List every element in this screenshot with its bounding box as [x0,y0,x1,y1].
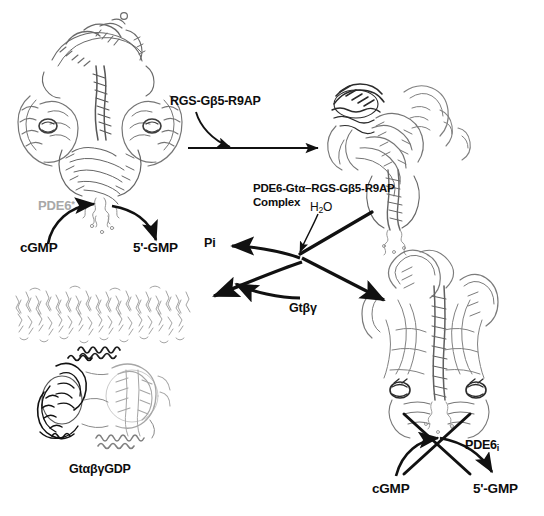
cropped-caption-sliver [0,507,544,516]
lipid-membrane-layer [16,286,190,343]
label-gt-alphabetagamma-gdp: GtαβγGDP [69,462,131,477]
label-5gmp-left: 5'-GMP [133,240,178,256]
arrow-complex-to-hub [300,212,372,254]
figure-canvas: PDE6* cGMP 5'-GMP RGS-Gβ5-R9AP PDE6-Gtα–… [0,0,544,516]
label-pde6-inactive-text: PDE6 [465,438,497,452]
label-water-o: O [323,200,332,214]
label-pi: Pi [204,236,215,251]
arrow-hub-to-pde6i [302,258,384,300]
label-rgs-gb5-r9ap: RGS-Gβ5-R9AP [170,94,261,109]
label-cgmp-right: cGMP [372,481,409,497]
label-water: H2O [310,200,332,215]
pde6-gta-rgs-complex-structure [328,84,471,255]
label-5gmp-right: 5'-GMP [473,481,518,497]
arrow-hub-to-pi [232,246,300,258]
label-complex-line2: Complex [253,196,300,208]
label-cgmp-left: cGMP [20,240,57,256]
arrow-gtbg-branch [236,284,300,298]
gt-heterotrimer-membrane-structure [16,286,190,449]
arrow-rgs-binding [188,112,318,148]
label-pde6-inactive-subscript: i [497,443,499,453]
label-pde6-active-text: PDE6 [38,198,71,213]
label-pde6-active: PDE6* [38,198,75,213]
diagram-scene [0,0,544,516]
pde6-inactive-structure [362,250,498,438]
label-complex-line1: PDE6-Gtα–RGS-Gβ5-R9AP [253,182,395,194]
label-pde6-inactive: PDE6i [465,438,499,454]
label-gt-betagamma: Gtβγ [289,301,317,316]
label-pde6-active-asterisk: * [71,199,74,209]
